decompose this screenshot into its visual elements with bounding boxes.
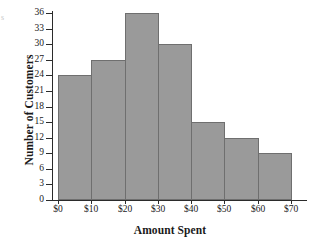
histogram-bar: [58, 75, 92, 200]
y-axis-tick: [46, 75, 52, 76]
y-axis-tick: [46, 138, 52, 139]
x-axis-tick-label: $70: [271, 205, 311, 215]
y-axis-tick: [46, 153, 52, 154]
y-axis-tick-label: 24: [18, 70, 44, 80]
y-axis-tick-label: 18: [18, 102, 44, 112]
histogram-bar: [224, 138, 259, 200]
y-axis-tick-label: 12: [18, 133, 44, 143]
y-axis-tick-label: 6: [18, 164, 44, 174]
x-axis-title: Amount Spent: [50, 224, 290, 236]
histogram-bar: [91, 60, 126, 200]
plot-area: 0369121518212427303336 $0$10$20$30$40$50…: [0, 0, 323, 246]
y-axis-tick: [46, 91, 52, 92]
y-axis-tick-label: 30: [18, 39, 44, 49]
y-axis-tick: [46, 60, 52, 61]
y-axis-tick: [46, 184, 52, 185]
histogram-bar: [158, 44, 192, 200]
y-axis-tick-label: 9: [18, 148, 44, 158]
y-axis-tick-label: 21: [18, 86, 44, 96]
y-axis-tick: [46, 107, 52, 108]
y-axis-tick-label: 33: [18, 24, 44, 34]
y-axis-tick: [46, 29, 52, 30]
y-axis-tick: [46, 169, 52, 170]
y-axis-tick: [46, 44, 52, 45]
histogram-bar: [125, 13, 159, 200]
histogram-bar: [191, 122, 225, 200]
histogram-bar: [258, 153, 292, 200]
histogram-figure: s Number of Customers 036912151821242730…: [0, 0, 323, 246]
y-axis-tick-label: 3: [18, 179, 44, 189]
y-axis-tick-label: 0: [18, 195, 44, 205]
y-axis-line: [52, 11, 53, 201]
y-axis-tick-label: 36: [18, 8, 44, 18]
y-axis-tick: [46, 13, 52, 14]
y-axis-tick: [46, 122, 52, 123]
y-axis-tick-label: 27: [18, 55, 44, 65]
y-axis-tick-label: 15: [18, 117, 44, 127]
y-axis-tick: [46, 200, 52, 201]
